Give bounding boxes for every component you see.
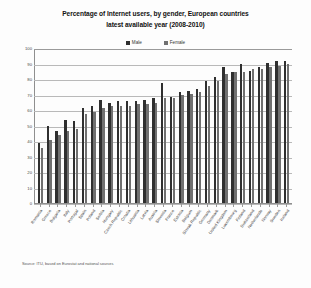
legend-label: Female — [170, 40, 185, 45]
chart-legend: MaleFemale — [0, 40, 311, 45]
y-axis-tick-label: 0 — [30, 202, 32, 206]
bar-group — [71, 49, 80, 203]
bar-group — [238, 49, 247, 203]
bar-female — [146, 104, 148, 203]
legend-item-male: Male — [126, 40, 142, 45]
y-axis-tick-label: 70 — [27, 94, 32, 98]
bar-female — [164, 98, 166, 203]
x-axis-label-slot: Bulgaria — [54, 208, 63, 256]
y-axis-tick-label: 60 — [27, 109, 32, 113]
bar-female — [243, 72, 245, 203]
bar-female — [85, 114, 87, 203]
y-axis-tick-label: 10 — [27, 187, 32, 191]
bar-group — [133, 49, 142, 203]
bar-female — [155, 103, 157, 203]
bar-group — [274, 49, 283, 203]
bar-group — [80, 49, 89, 203]
bar-female — [208, 86, 210, 203]
y-axis-tick-label: 30 — [27, 156, 32, 160]
y-axis-tick-label: 90 — [27, 63, 32, 67]
chart-figure: Percentage of Internet users, by gender,… — [0, 0, 311, 288]
bar-group — [282, 49, 291, 203]
bar-group — [98, 49, 107, 203]
y-axis-tick-label: 20 — [27, 171, 32, 175]
bar-group — [212, 49, 221, 203]
bar-female — [129, 106, 131, 203]
bar-female — [217, 81, 219, 203]
y-axis-tick-label: 80 — [27, 78, 32, 82]
bar-group — [36, 49, 45, 203]
bar-group — [159, 49, 168, 203]
bar-group — [124, 49, 133, 203]
bar-female — [49, 140, 51, 203]
bar-female — [120, 106, 122, 203]
bar-female — [287, 64, 289, 203]
bar-female — [234, 72, 236, 203]
bar-group — [247, 49, 256, 203]
bar-group — [203, 49, 212, 203]
bar-female — [111, 106, 113, 203]
plot-area: 1009080706050403020100 — [34, 49, 292, 204]
chart-title-block: Percentage of Internet users, by gender,… — [0, 9, 311, 30]
y-axis-tick-label: 100 — [25, 47, 32, 51]
bar-group — [62, 49, 71, 203]
legend-label: Male — [132, 40, 142, 45]
chart-subtitle: latest available year (2008-2010) — [0, 20, 311, 31]
legend-swatch-icon — [164, 41, 168, 45]
bar-female — [173, 98, 175, 203]
bar-series-container — [35, 49, 292, 203]
chart-title: Percentage of Internet users, by gender,… — [0, 9, 311, 20]
legend-item-female: Female — [164, 40, 185, 45]
bar-female — [190, 94, 192, 203]
x-axis-labels: RomaniaGreeceBulgariaItalyPortugalSpainP… — [35, 208, 292, 256]
bar-group — [150, 49, 159, 203]
bar-group — [89, 49, 98, 203]
bar-female — [252, 69, 254, 203]
bar-group — [194, 49, 203, 203]
bar-group — [106, 49, 115, 203]
bar-group — [115, 49, 124, 203]
bar-group — [142, 49, 151, 203]
bar-group — [230, 49, 239, 203]
bar-female — [225, 74, 227, 203]
bar-female — [278, 66, 280, 203]
bar-female — [76, 129, 78, 203]
legend-swatch-icon — [126, 41, 130, 45]
x-axis-label-slot: Iceland — [282, 208, 291, 256]
bar-female — [102, 108, 104, 203]
bar-group — [221, 49, 230, 203]
y-axis-tick-label: 50 — [27, 125, 32, 129]
bar-female — [67, 131, 69, 203]
bar-group — [168, 49, 177, 203]
bar-female — [261, 69, 263, 203]
source-note: Source: ITU, based on Eurostat and natio… — [22, 261, 113, 266]
bar-group — [186, 49, 195, 203]
bar-female — [269, 67, 271, 203]
bar-female — [181, 95, 183, 203]
bar-female — [137, 104, 139, 203]
bar-female — [41, 148, 43, 203]
bar-female — [93, 112, 95, 203]
bar-group — [54, 49, 63, 203]
bar-group — [256, 49, 265, 203]
bar-female — [58, 135, 60, 203]
bar-group — [177, 49, 186, 203]
bar-female — [199, 92, 201, 203]
bar-group — [45, 49, 54, 203]
bar-group — [265, 49, 274, 203]
y-axis-tick-label: 40 — [27, 140, 32, 144]
